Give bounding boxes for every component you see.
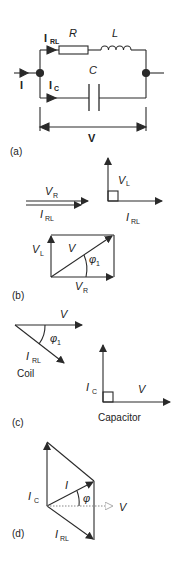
label-cap-IC: I [86, 381, 89, 393]
label-IRL-b2: I [126, 211, 129, 223]
label-IRL-b-sub: RL [45, 215, 54, 222]
resistor-symbol [59, 46, 88, 54]
label-R: R [69, 27, 77, 39]
label-coil-phi-sub: 1 [57, 339, 61, 346]
label-d-IC-sub: C [34, 497, 39, 504]
tag-c: (c) [12, 417, 24, 428]
right-angle-icon [108, 191, 118, 201]
d-irl-phasor [47, 506, 93, 539]
voltage-arrow-right-icon [137, 123, 146, 131]
label-VL-sub: L [126, 180, 130, 187]
tag-b: (b) [12, 290, 24, 301]
label-IC: I [49, 79, 52, 91]
d-phi-arc [77, 491, 79, 506]
label-d-I: I [65, 479, 68, 491]
label-d-IC: I [28, 490, 31, 502]
label-rect-VL-sub: L [40, 250, 44, 257]
d-parallelogram-top [47, 442, 94, 481]
phasor-panel-d [47, 442, 112, 540]
circuit-panel-a [14, 46, 164, 131]
label-d-V: V [119, 501, 128, 513]
label-cap-IC-sub: C [92, 388, 97, 395]
caption-coil: Coil [17, 368, 34, 379]
cap-right-angle-icon [103, 392, 113, 402]
node-left-icon [37, 70, 44, 77]
label-coil-V: V [60, 308, 69, 320]
label-IRL-b2-sub: RL [131, 218, 140, 225]
label-d-IRL: I [55, 528, 58, 540]
label-rect-V: V [68, 242, 77, 254]
label-C: C [89, 64, 97, 76]
label-VR-sub: R [53, 192, 58, 199]
label-coil-IRL: I [26, 350, 29, 362]
coil-phi1-arc [39, 325, 45, 344]
panel-d-labels: I C I φ V I RL [28, 479, 128, 542]
label-IRL-sub: RL [50, 38, 60, 45]
ic-arrow-icon [47, 94, 56, 102]
tag-d: (d) [12, 528, 24, 539]
node-right-icon [143, 70, 150, 77]
label-rect-VR-sub: R [83, 287, 88, 294]
label-IRL: I [44, 32, 47, 44]
label-d-phi: φ [83, 492, 90, 504]
label-cap-V: V [138, 383, 147, 395]
phasor-diagram: I I RL I C R L C V (a) V R I RL V L I RL… [0, 0, 179, 569]
voltage-arrow-left-icon [40, 123, 49, 131]
phi1-arc [84, 255, 87, 277]
label-coil-IRL-sub: RL [32, 357, 41, 364]
input-current-arrow-icon [20, 69, 28, 77]
label-phi1-sub: 1 [96, 260, 100, 267]
tag-a: (a) [10, 146, 22, 157]
label-IC-sub: C [54, 85, 59, 92]
caption-capacitor: Capacitor [98, 412, 141, 423]
inductor-symbol [101, 46, 131, 50]
irl-arrow-icon [47, 46, 56, 54]
label-d-IRL-sub: RL [60, 535, 69, 542]
label-IRL-b: I [40, 208, 43, 220]
label-V: V [88, 132, 96, 144]
label-I-input: I [20, 79, 23, 91]
label-L: L [112, 27, 118, 39]
rect-v-phasor [51, 236, 112, 277]
